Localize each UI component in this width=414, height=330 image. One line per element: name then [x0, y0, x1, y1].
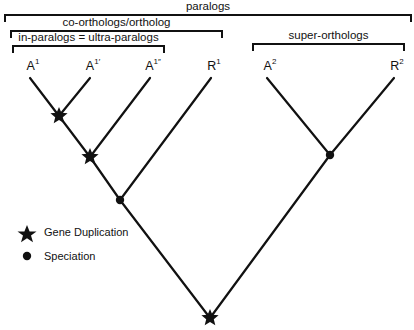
branch-A1-prime	[59, 78, 90, 116]
branch-spec1-root	[120, 200, 210, 318]
leaf-base: R	[390, 59, 399, 73]
leaf-base: R	[207, 59, 216, 73]
branch-A1	[30, 78, 59, 116]
phylogenetic-tree	[0, 0, 414, 330]
leaf-label-R1: R1	[207, 59, 220, 73]
leaf-superscript: 1	[216, 57, 220, 66]
star-icon	[18, 225, 37, 242]
legend-label: Gene Duplication	[44, 226, 128, 238]
leaf-label-A1: A1	[27, 59, 40, 73]
branch-R1	[120, 78, 211, 200]
bracket-label-co-orthologs: co-orthologs/ortholog	[62, 17, 170, 29]
bracket-in-paralogs	[13, 46, 164, 53]
legend-gene-duplication: Gene Duplication	[36, 226, 128, 238]
dot-icon	[23, 252, 31, 260]
branch-spec2-root	[210, 155, 330, 318]
speciation-dot-icon	[116, 196, 124, 204]
branch-R2	[330, 78, 394, 155]
leaf-label-A2: A2	[264, 59, 277, 73]
bracket-label-super-orthologs: super-orthologs	[289, 30, 369, 42]
leaf-superscript: 2	[399, 57, 403, 66]
leaf-superscript: 1	[35, 57, 39, 66]
legend-symbols	[18, 225, 37, 260]
node-group	[50, 107, 334, 325]
branch-group	[30, 78, 394, 318]
bracket-label-in-paralogs: in-paralogs = ultra-paralogs	[18, 32, 158, 44]
branch-A1-double-prime	[90, 78, 150, 157]
leaf-label-A1p: A1′	[86, 59, 100, 73]
bracket-label-paralogs: paralogs	[186, 1, 230, 13]
leaf-superscript: 1″	[154, 57, 161, 66]
leaf-label-A1pp: A1″	[145, 59, 161, 73]
bracket-super-orthologs	[253, 44, 404, 51]
leaf-superscript: 1′	[94, 57, 100, 66]
speciation-dot-icon	[326, 151, 334, 159]
leaf-label-R2: R2	[390, 59, 403, 73]
leaf-superscript: 2	[272, 57, 276, 66]
legend-speciation: Speciation	[36, 250, 95, 262]
legend-label: Speciation	[44, 250, 95, 262]
branch-A2	[267, 78, 330, 155]
